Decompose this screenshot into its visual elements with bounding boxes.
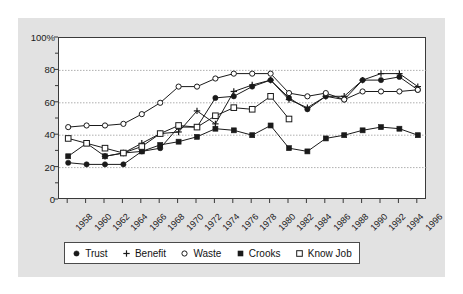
x-tick-label: 1960 [92,211,113,232]
x-tick-label: 1958 [74,211,95,232]
x-tick-label: 1978 [258,211,279,232]
x-tick-label: 1970 [184,211,205,232]
open-square-icon [295,249,304,258]
plus-icon [122,249,131,258]
x-tick-label: 1972 [202,211,223,232]
filled-square-icon [236,249,245,258]
x-tick-label: 1986 [331,211,352,232]
legend-entry-benefit: Benefit [122,248,166,259]
x-tick-label: 1974 [221,211,242,232]
x-tick-label: 1962 [110,211,131,232]
x-tick-label: 1984 [313,211,334,232]
legend-label: Waste [193,248,221,259]
x-tick-label: 1976 [239,211,260,232]
x-tick-label: 1990 [368,211,389,232]
x-tick-label: 1968 [166,211,187,232]
x-tick-label: 1992 [386,211,407,232]
x-tick-label: 1994 [405,211,426,232]
x-tick-label: 1982 [294,211,315,232]
x-tick-label: 1996 [423,211,444,232]
filled-circle-icon [72,249,81,258]
x-axis-labels: 1958196019621964196619681970197219741976… [18,18,445,277]
open-circle-icon [180,249,189,258]
legend-label: Trust [85,248,107,259]
legend-label: Know Job [308,248,352,259]
legend-entry-crooks: Crooks [236,248,281,259]
chart-figure: 100%806040200 19581960196219641966196819… [18,18,445,277]
legend-entry-waste: Waste [180,248,221,259]
legend-label: Benefit [135,248,166,259]
legend-entry-trust: Trust [72,248,107,259]
legend-label: Crooks [249,248,281,259]
legend-entry-know-job: Know Job [295,248,352,259]
x-tick-label: 1988 [350,211,371,232]
x-tick-label: 1964 [129,211,150,232]
chart-legend: TrustBenefitWasteCrooksKnow Job [64,242,360,264]
x-tick-label: 1980 [276,211,297,232]
x-tick-label: 1966 [147,211,168,232]
